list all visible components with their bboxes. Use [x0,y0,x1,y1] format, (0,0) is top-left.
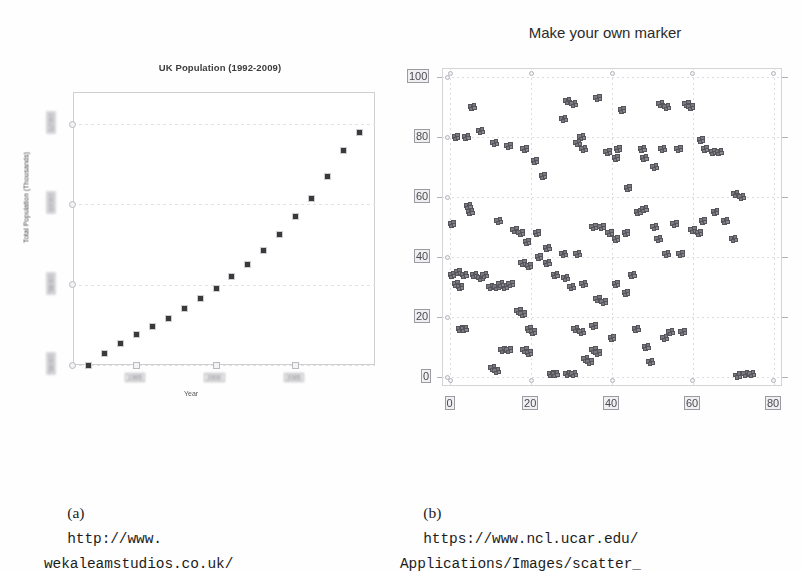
figure-b-data-point [452,133,461,142]
figure-b-y-tick-edge [437,317,442,318]
figure-b-data-point [628,271,637,280]
figure-b-x-gridline [531,68,532,386]
figure-b-y-tick-edge [437,137,442,138]
figure-a-x-axis-label: Year [184,390,198,397]
figure-b-y-tick-edge [437,77,442,78]
figure-a-y-axis-label: Total Population (Thousands) [23,133,30,263]
figure-b-data-point [678,328,687,337]
figure-b-data-point [579,280,588,289]
figure-a-data-point [102,351,107,356]
figure-a-x-tick-mark [133,362,140,369]
figure-b-x-tick-label: 60 [684,396,700,410]
figure-b-data-point [642,343,651,352]
figure-b-x-tick-dot-top [448,71,453,76]
figure-b-data-point [585,358,594,367]
figure-a-plot-frame [73,92,375,365]
figure-b-data-point [525,262,534,271]
figure-a-y-tick-mark [69,201,76,208]
figure-b-data-point [506,280,515,289]
figure-b-data-point [569,370,578,379]
figure-b-y-tick-label: 60 [414,189,430,203]
figure-b-data-point [676,250,685,259]
figure-b-data-point [573,250,582,259]
figure-b-x-gridline [774,68,775,386]
figure-b-y-tick-edge-right [782,317,788,318]
caption-b-url-line-2: Applications/Images/scatter_ [400,556,641,571]
figure-b-y-tick-dot [445,195,450,200]
figure-b-data-point [729,235,738,244]
figure-a-data-point [214,286,219,291]
figure-b-data-point [539,172,548,181]
figure-a-x-tick-label: 2005 [284,373,304,382]
caption-figure-b: (b) https://www.ncl.ucar.edu/ Applicatio… [400,425,641,571]
figure-b-data-point [516,229,525,238]
figure-b-data-point [711,208,720,217]
figure-b-data-point [518,310,527,319]
figure-a-x-tick-label: 2000 [204,373,224,382]
figure-b-data-point [618,106,627,115]
figure-b-data-point [460,325,469,334]
figure-a-data-point [86,363,91,368]
figure-a-y-tick-mark [69,121,76,128]
figure-b-x-tick-label: 40 [603,396,619,410]
figure-b-data-point [737,193,746,202]
figure-page: UK Population (1992-2009) Total Populati… [0,0,802,571]
figure-b-data-point [567,283,576,292]
figure-b-x-tick-label: 80 [765,396,781,410]
figure-b-data-point [640,154,649,163]
figure-b-data-point [579,145,588,154]
figure-b-data-point [492,367,501,376]
figure-a-y-tick-label: 58000 [47,272,56,294]
figure-b-data-point [599,298,608,307]
figure-b-x-tick-dot [610,378,615,383]
figure-b-data-point [529,328,538,337]
figure-b-y-tick-edge [437,197,442,198]
figure-b-data-point [496,280,505,289]
figure-a-y-gridline [73,285,375,286]
figure-b-x-tick-dot [448,378,453,383]
figure-b-data-point [650,223,659,232]
figure-b-data-point [662,103,671,112]
figure-b-scatterplot: Make your own marker 0204060801000204060… [400,0,802,420]
figure-b-data-point [686,103,695,112]
figure-b-y-tick-edge [437,257,442,258]
figure-b-data-point [612,280,621,289]
caption-b-url-line-1: https://www.ncl.ucar.edu/ [423,531,638,547]
figure-b-data-point [666,328,675,337]
figure-b-data-point [559,115,568,124]
caption-b-label: (b) [423,500,463,525]
figure-b-data-point [662,250,671,259]
figure-b-x-tick-label: 20 [522,396,538,410]
caption-a-label: (a) [67,500,279,525]
figure-b-y-tick-edge [437,377,442,378]
figure-a-data-point [277,232,282,237]
figure-b-y-tick-edge-right [782,257,788,258]
figure-b-data-point [721,217,730,226]
caption-a-url-line-1: http://www. [67,531,162,547]
figure-b-data-point [697,136,706,145]
caption-figure-a: (a) http://www. wekaleamstudios.co.uk/ w… [44,425,279,571]
figure-b-data-point [520,145,529,154]
figure-b-data-point [494,217,503,226]
figure-b-x-tick-dot [529,378,534,383]
figure-b-data-point [608,334,617,343]
figure-b-data-point [523,238,532,247]
figure-b-data-point [504,346,513,355]
figure-a-y-gridline [73,124,375,125]
figure-b-data-point [525,349,534,358]
figure-b-data-point [638,145,647,154]
figure-b-data-point [715,148,724,157]
figure-b-data-point [569,100,578,109]
figure-b-x-tick-label: 0 [445,396,455,410]
figure-b-data-point [531,157,540,166]
figure-b-data-point [612,154,621,163]
figure-a-x-tick-mark [292,362,299,369]
figure-b-y-tick-dot [445,255,450,260]
figure-b-data-point [543,259,552,268]
figure-b-y-tick-edge-right [782,197,788,198]
figure-b-y-tick-dot [445,135,450,140]
figure-a-scatterplot: UK Population (1992-2009) Total Populati… [0,0,400,420]
figure-b-data-point [468,103,477,112]
figure-b-data-point [589,322,598,331]
figure-a-data-point [118,341,123,346]
